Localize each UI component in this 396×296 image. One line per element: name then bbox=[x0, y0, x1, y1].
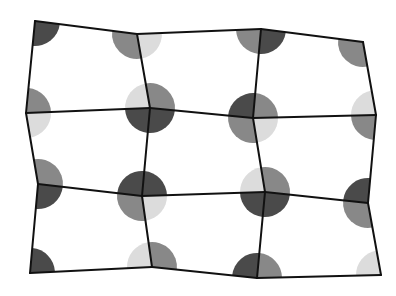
quadrant-mid-r1-c2-tr bbox=[253, 93, 278, 118]
quadrant-mid-r3-c2-tr bbox=[257, 253, 282, 278]
grid-edges bbox=[26, 21, 381, 278]
quadrant-dark-r0-c2-br bbox=[259, 29, 286, 54]
quadrant-dark-r3-c2-tl bbox=[232, 253, 259, 278]
distorted-grid-diagram bbox=[0, 0, 396, 296]
quadrant-dark-r3-c0-tr bbox=[30, 248, 55, 273]
quadrant-dark-r2-c2-bl bbox=[240, 192, 265, 217]
quadrant-dark-r2-c3-tl bbox=[343, 178, 370, 203]
quadrant-mid-r1-c0-tr bbox=[26, 88, 51, 113]
quadrant-dark-r2-c0-br bbox=[36, 184, 63, 209]
quadrant-mid-r0-c2-bl bbox=[236, 29, 261, 54]
quadrant-dark-r2-c1-tl bbox=[117, 171, 144, 196]
quadrant-dark-r1-c1-br bbox=[148, 108, 175, 133]
vertex-quadrant-circles bbox=[26, 21, 381, 278]
quadrant-dark-r2-c1-tr bbox=[142, 171, 167, 196]
quadrant-dark-r1-c2-tl bbox=[228, 93, 255, 118]
quadrant-mid-r1-c3-bl bbox=[351, 115, 376, 140]
quadrant-dark-r1-c1-bl bbox=[125, 108, 150, 133]
quadrant-dark-r0-c0-br bbox=[33, 21, 60, 46]
quadrant-dark-r2-c2-br bbox=[263, 192, 290, 217]
